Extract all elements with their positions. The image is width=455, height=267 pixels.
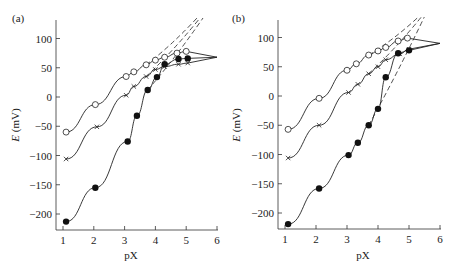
y-tick-label: −200 [251,207,274,219]
y-tick-label: 50 [263,61,275,73]
y-tick-label: −150 [29,179,52,191]
y-axis-label: E (mV) [9,108,22,143]
fit-curve-1 [288,43,440,158]
open-circle-marker [123,74,129,80]
figure: (a) −200−150−100−50050100 123456 pX E (m… [0,0,455,267]
filled-circle-marker [63,218,69,224]
open-circle-marker [366,52,372,58]
fit-curves [66,18,217,222]
x-tick-label: 4 [153,234,159,246]
fit-curve-1 [66,57,217,159]
open-circle-marker [285,126,291,132]
svg-text:E (mV): E (mV) [9,108,22,143]
x-tick-label: 5 [406,233,412,245]
open-circle-marker [131,69,137,75]
filled-circle-marker [355,140,361,146]
filled-circle-marker [285,221,291,227]
filled-circle-marker [185,55,191,61]
filled-circle-marker [145,87,151,93]
open-circle-marker [383,44,389,50]
x-tick-label: 2 [313,233,319,245]
x-axis-label: pX [356,249,370,261]
y-tick-label: −50 [257,119,275,131]
x-tick-label: 5 [183,234,189,246]
open-circle-marker [162,54,168,60]
y-tick-label: 0 [269,90,275,102]
y-tick-label: −50 [35,120,53,132]
fit-curve-2 [288,43,440,224]
open-circle-marker [395,38,401,44]
y-tick-label: −150 [251,178,274,190]
fit-curve-2 [66,57,217,221]
fit-curve-0 [66,51,217,132]
y-tick-label: 100 [258,32,275,44]
x-tick-label: 3 [344,233,350,245]
open-circle-marker [344,67,350,73]
y-tick-label: 0 [47,91,53,103]
x-axis-label: pX [124,249,138,261]
y-tick-label: 50 [41,62,53,74]
open-circle-marker [174,50,180,56]
filled-circle-marker [345,152,351,158]
filled-circle-marker [175,56,181,62]
open-circle-marker [63,129,69,135]
filled-circle-marker [366,122,372,128]
filled-circle-marker [154,74,160,80]
nernstian-line-1 [146,18,200,77]
fit-curves [288,17,440,224]
open-circle-marker [143,62,149,68]
fit-curve-0 [288,38,440,129]
svg-text:E (mV): E (mV) [230,108,243,143]
y-tick-label: −100 [251,149,274,161]
filled-circle-marker [161,61,167,67]
x-ticks: 123456 [282,225,443,245]
open-circle-marker [353,61,359,67]
data-points [63,48,191,224]
y-tick-label: 100 [36,33,53,45]
data-points [285,35,412,227]
filled-circle-marker [134,113,140,119]
x-ticks: 123456 [60,226,220,246]
panel-b-label: (b) [232,12,245,25]
panel-a-label: (a) [12,12,25,25]
filled-circle-marker [124,138,130,144]
filled-circle-marker [316,185,322,191]
panel-a: (a) −200−150−100−50050100 123456 pX E (m… [9,12,220,261]
filled-circle-marker [383,74,389,80]
x-tick-label: 3 [122,234,128,246]
x-tick-label: 1 [282,233,288,245]
filled-circle-marker [395,50,401,56]
panel-b: (b) −200−150−100−50050100 123456 pX E (m… [230,12,443,261]
filled-circle-marker [406,47,412,53]
filled-circle-marker [375,106,381,112]
y-ticks: −200−150−100−50050100 [251,32,282,220]
filled-circle-marker [92,184,98,190]
x-tick-label: 6 [437,233,443,245]
open-circle-marker [316,95,322,101]
open-circle-marker [183,48,189,54]
y-tick-label: −200 [29,208,52,220]
x-tick-label: 2 [91,234,97,246]
x-tick-label: 4 [375,233,381,245]
x-tick-label: 6 [214,234,220,246]
open-circle-marker [92,102,98,108]
y-axis-label: E (mV) [230,108,243,143]
y-ticks: −200−150−100−50050100 [29,33,60,221]
open-circle-marker [152,57,158,63]
open-circle-marker [375,48,381,54]
y-tick-label: −100 [29,150,52,162]
open-circle-marker [404,35,410,41]
x-tick-label: 1 [60,234,66,246]
